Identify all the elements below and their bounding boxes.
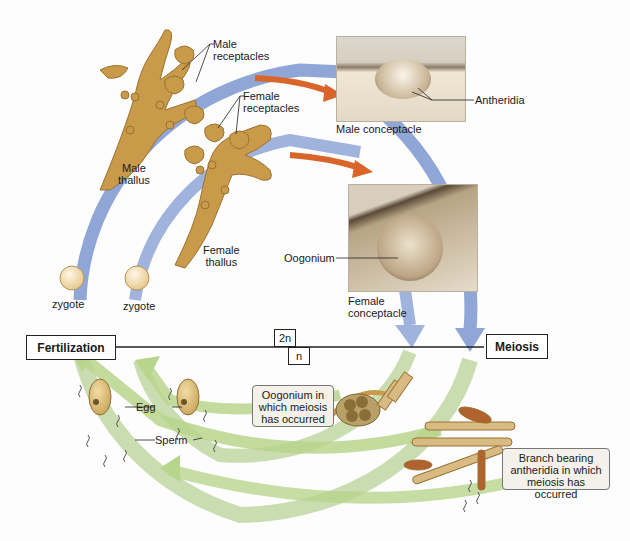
egg-label: Egg [136, 401, 156, 413]
haploid-label: n [288, 347, 310, 365]
fertilization-box: Fertilization [26, 335, 116, 360]
female-conceptacle-label: Female conceptacle [348, 295, 407, 319]
female-receptacles-label: Female receptacles [243, 90, 299, 114]
zygote-1-label: zygote [52, 298, 84, 310]
oogonium-label: Oogonium [284, 252, 335, 264]
oogonium-meiosis-callout: Oogonium in which meiosis has occurred [252, 385, 334, 427]
meiosis-box: Meiosis [486, 334, 548, 359]
zygote-2-label: zygote [123, 300, 155, 312]
fucus-life-cycle-diagram: Male receptacles Female receptacles Male… [0, 0, 630, 541]
diploid-label: 2n [274, 329, 296, 347]
antheridia-label: Antheridia [475, 94, 525, 106]
male-conceptacle-label: Male conceptacle [336, 123, 422, 135]
female-thallus-label: Female thallus [203, 244, 240, 268]
antheridia-branch-callout: Branch bearing antheridia in which meios… [502, 448, 610, 490]
male-thallus-label: Male thallus [118, 162, 150, 186]
male-receptacles-label: Male receptacles [213, 38, 269, 62]
sperm-label: Sperm [155, 434, 187, 446]
